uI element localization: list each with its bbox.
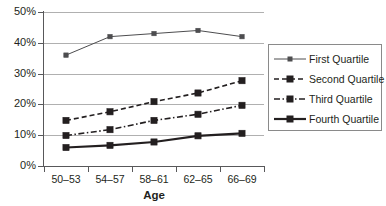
data-point-marker — [152, 31, 156, 35]
y-tick-label: 20% — [2, 98, 36, 109]
legend-item-first-quartile[interactable]: First Quartile — [269, 49, 381, 69]
data-point-marker — [151, 99, 157, 105]
x-axis-line — [43, 166, 265, 167]
data-point-marker — [63, 117, 69, 123]
series-second-quartile — [63, 78, 245, 124]
x-tick-mark — [264, 167, 265, 172]
series-first-quartile — [64, 28, 244, 57]
series-fourth-quartile — [63, 130, 245, 150]
x-tick-mark — [176, 167, 177, 172]
legend-item-third-quartile[interactable]: Third Quartile — [269, 89, 381, 109]
y-tick-label: 10% — [2, 129, 36, 140]
data-point-marker — [107, 127, 113, 133]
data-point-marker — [107, 142, 113, 148]
series-layer — [44, 12, 264, 166]
data-point-marker — [63, 132, 69, 138]
y-tick-mark — [38, 43, 44, 44]
legend-label: Fourth Quartile — [307, 113, 379, 125]
legend-swatch-icon — [273, 52, 307, 66]
data-point-marker — [195, 90, 201, 96]
y-tick-label: 40% — [2, 37, 36, 48]
y-tick-label: 0% — [2, 160, 36, 171]
y-tick-label: 50% — [2, 6, 36, 17]
data-point-marker — [240, 34, 244, 38]
y-tick-mark — [38, 12, 44, 13]
legend-item-second-quartile[interactable]: Second Quartile — [269, 69, 381, 89]
data-point-marker — [151, 117, 157, 123]
data-point-marker — [107, 109, 113, 115]
data-point-marker — [195, 133, 201, 139]
legend-swatch-icon — [273, 92, 307, 106]
x-tick-mark — [132, 167, 133, 172]
x-tick-mark — [220, 167, 221, 172]
data-point-marker — [63, 144, 69, 150]
data-point-marker — [239, 102, 245, 108]
data-point-marker — [196, 28, 200, 32]
x-tick-mark — [88, 167, 89, 172]
x-tick-label: 66–69 — [216, 174, 268, 185]
y-tick-mark — [38, 74, 44, 75]
legend-label: First Quartile — [307, 53, 369, 65]
data-point-marker — [64, 53, 68, 57]
y-tick-label: 30% — [2, 68, 36, 79]
data-point-marker — [195, 111, 201, 117]
data-point-marker — [108, 34, 112, 38]
chart-container: 0%10%20%30%40%50% Age First QuartileSeco… — [0, 0, 386, 206]
legend-swatch-icon — [273, 112, 307, 126]
y-tick-mark — [38, 104, 44, 105]
y-tick-mark — [38, 135, 44, 136]
series-third-quartile — [63, 102, 245, 138]
x-axis-title: Age — [44, 189, 264, 201]
legend-swatch-icon — [273, 72, 307, 86]
chart-legend: First QuartileSecond QuartileThird Quart… — [268, 44, 382, 131]
data-point-marker — [239, 130, 245, 136]
data-point-marker — [151, 139, 157, 145]
data-point-marker — [239, 78, 245, 84]
x-tick-mark — [44, 167, 45, 172]
legend-label: Second Quartile — [307, 73, 384, 85]
y-axis-tick-labels: 0%10%20%30%40%50% — [0, 0, 36, 206]
plot-area — [44, 12, 264, 166]
legend-item-fourth-quartile[interactable]: Fourth Quartile — [269, 109, 381, 129]
legend-label: Third Quartile — [307, 93, 373, 105]
